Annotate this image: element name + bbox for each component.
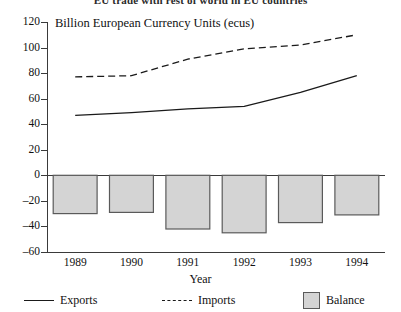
balance-bar bbox=[53, 175, 97, 213]
chart-legend: Exports Imports Balance bbox=[0, 291, 401, 312]
balance-bar bbox=[110, 175, 154, 212]
legend-item-exports[interactable]: Exports bbox=[24, 291, 97, 309]
legend-label-balance: Balance bbox=[326, 293, 365, 308]
imports-line bbox=[75, 35, 357, 77]
balance-bar bbox=[335, 175, 379, 215]
dashed-line-icon bbox=[162, 300, 192, 301]
gray-square-icon bbox=[303, 292, 320, 309]
x-tick-label-1994: 1994 bbox=[327, 256, 387, 268]
x-tick-label-1989: 1989 bbox=[45, 256, 105, 268]
x-tick-label-1992: 1992 bbox=[214, 256, 274, 268]
legend-item-balance[interactable]: Balance bbox=[303, 291, 365, 309]
x-tick-label-1993: 1993 bbox=[271, 256, 331, 268]
legend-label-exports: Exports bbox=[60, 293, 97, 308]
balance-bar bbox=[222, 175, 266, 233]
balance-bar bbox=[166, 175, 210, 229]
exports-line bbox=[75, 76, 357, 116]
legend-item-imports[interactable]: Imports bbox=[162, 291, 235, 309]
legend-label-imports: Imports bbox=[198, 293, 235, 308]
solid-line-icon bbox=[24, 300, 54, 301]
chart-container: EU trade with rest of world in EU countr… bbox=[0, 0, 401, 312]
x-axis-title: Year bbox=[0, 272, 401, 287]
balance-bar bbox=[279, 175, 323, 222]
x-tick-label-1990: 1990 bbox=[102, 256, 162, 268]
x-tick-label-1991: 1991 bbox=[158, 256, 218, 268]
